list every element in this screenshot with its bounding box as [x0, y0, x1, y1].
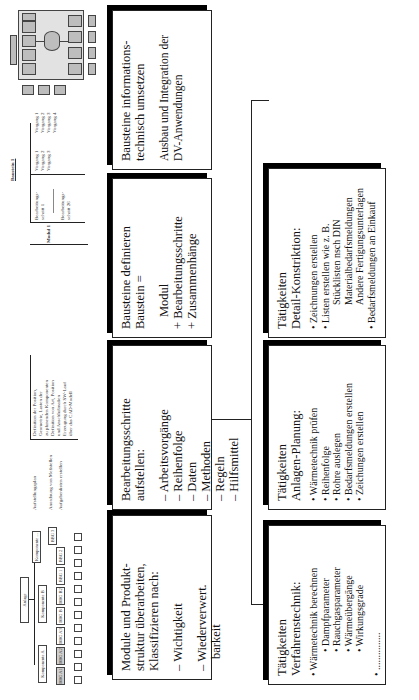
hierarchy-diagram: Anlage Komponente A Komponente B Kompone…: [8, 510, 88, 685]
baustein-table: Baustein 1 Modul 1 Bearbeitungs-schritt …: [8, 95, 88, 245]
box-bearbeitungsschritte: Bearbeitungsschritte aufstellen: – Arbei…: [112, 345, 212, 510]
process-step: Anordnung von Meßstellen: [48, 455, 54, 510]
hierarchy-sub: BBG B2: [56, 587, 65, 605]
baustein-step: Bearbeitungs-schritt 26: [60, 180, 72, 220]
baustein-module: Modul 1: [46, 225, 52, 243]
hierarchy-component-more: Komponente ...: [32, 531, 41, 563]
box-bausteine-definieren: Bausteine definieren Baustein = Modul + …: [112, 178, 212, 338]
box-taetigkeiten-verfahrenstechnik: Tätigkeiten Verfahrenstechnik: • Wärmete…: [268, 525, 386, 685]
database-icon: [44, 31, 60, 51]
hierarchy-component-b: Komponente B: [38, 585, 47, 623]
box-module-struktur: Module und Produkt- struktur überarbeite…: [112, 515, 212, 680]
hierarchy-root: Anlage: [20, 577, 29, 623]
hierarchy-sub: BBG A2: [56, 647, 65, 665]
baustein-step: Bearbeitungs-schritt 1: [34, 180, 46, 220]
hierarchy-sub: BBG 2: [56, 547, 65, 565]
hierarchy-sub: BBG A1: [56, 667, 65, 685]
hierarchy-sub: BBG 1: [56, 567, 65, 585]
box-taetigkeiten-detail-konstruktion: Tätigkeiten Detail-Konstriktion: • Zeich…: [268, 168, 386, 338]
hierarchy-sub: BBG A3: [56, 627, 65, 645]
process-table: Aufstellungsplan Anordnung von Meßstelle…: [30, 350, 80, 510]
process-step: Aufstellungsplan: [32, 476, 38, 510]
process-step: Aufgabenlisten erstellen: [58, 461, 64, 510]
baustein-title: Baustein 1: [10, 159, 16, 181]
hierarchy-sub: BBG 3: [48, 527, 57, 545]
rotated-document-page: Anlage Komponente A Komponente B Kompone…: [0, 0, 419, 700]
box-taetigkeiten-anlagen-planung: Tätigkeiten Anlagen-Planung: • Wärmetech…: [268, 345, 386, 510]
baustein-vorgaenge: Vorgang 1 Vorgang 2 Vorgang 3: [34, 150, 52, 171]
process-description: Definition der Position, Geometrie, Last…: [32, 380, 74, 436]
baustein-vorgaenge: Vorgang 1 Vorgang 2 Vorgang 3 Vorgang 4: [34, 112, 58, 133]
hierarchy-component-a: Komponente A: [38, 645, 47, 683]
system-architecture-diagram: [8, 5, 96, 95]
box-bausteine-umsetzen: Bausteine informations- technisch umsetz…: [112, 10, 212, 170]
hierarchy-sub: BBG B: [56, 607, 65, 625]
